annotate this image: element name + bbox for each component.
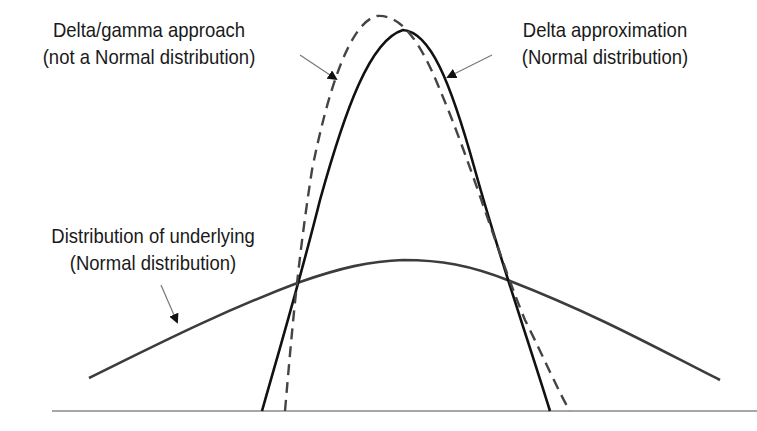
underlying-label-line1: Distribution of underlying — [34, 222, 272, 249]
delta-approximation-curve — [262, 30, 550, 411]
delta-arrow — [448, 55, 492, 77]
delta-gamma-label: Delta/gamma approach (not a Normal distr… — [30, 16, 268, 70]
delta-gamma-arrow — [300, 55, 336, 79]
delta-gamma-label-line2: (not a Normal distribution) — [30, 43, 268, 70]
diagram-canvas: Delta/gamma approach (not a Normal distr… — [0, 0, 757, 431]
underlying-arrow — [161, 285, 177, 322]
underlying-label: Distribution of underlying (Normal distr… — [34, 222, 272, 276]
delta-label: Delta approximation (Normal distribution… — [508, 16, 702, 70]
delta-gamma-curve — [285, 16, 570, 411]
underlying-label-line2: (Normal distribution) — [34, 249, 272, 276]
delta-label-line1: Delta approximation — [508, 16, 702, 43]
delta-label-line2: (Normal distribution) — [508, 43, 702, 70]
delta-gamma-label-line1: Delta/gamma approach — [30, 16, 268, 43]
underlying-distribution-curve — [89, 260, 720, 380]
